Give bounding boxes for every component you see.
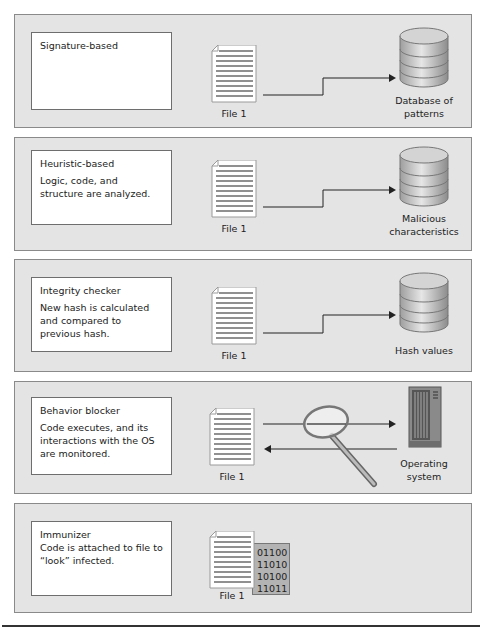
binary-code-block: 01100 11010 10100 11011 (252, 543, 290, 595)
database-icon (399, 27, 449, 89)
arrow-connector (263, 295, 398, 340)
file-label: File 1 (204, 108, 264, 119)
file-label: File 1 (202, 471, 262, 482)
target-label: Operating system (379, 457, 469, 483)
database-icon (399, 146, 449, 208)
panel-signature-based: Signature-based File 1 Database of (14, 14, 472, 128)
document-icon (211, 287, 257, 345)
target-label: Hash values (379, 344, 469, 357)
description-box: Immunizer Code is attached to file to “l… (31, 521, 172, 596)
method-title: Immunizer (40, 528, 163, 541)
method-title: Behavior blocker (40, 404, 163, 417)
server-tower-icon (408, 386, 442, 448)
panel-immunizer: Immunizer Code is attached to file to “l… (14, 503, 472, 613)
description-box: Signature-based (31, 32, 172, 110)
description-box: Behavior blocker Code executes, and its … (31, 397, 172, 475)
description-box: Heuristic-based Logic, code, and structu… (31, 150, 172, 225)
panel-integrity-checker: Integrity checker New hash is calculated… (14, 259, 472, 372)
method-description: Logic, code, and structure are analyzed. (40, 174, 163, 200)
panel-behavior-blocker: Behavior blocker Code executes, and its … (14, 381, 472, 494)
method-title: Heuristic-based (40, 157, 163, 170)
magnifying-glass-icon (302, 404, 382, 489)
arrow-connector (263, 168, 398, 213)
file-label: File 1 (202, 590, 262, 601)
document-icon (209, 408, 255, 466)
target-label: Database of patterns (379, 94, 469, 120)
method-description: Code is attached to file to “look” infec… (40, 541, 163, 567)
bottom-divider (2, 625, 480, 627)
file-label: File 1 (204, 223, 264, 234)
method-description: Code executes, and its interactions with… (40, 421, 163, 460)
document-icon (209, 531, 255, 589)
document-icon (211, 160, 257, 218)
file-label: File 1 (204, 350, 264, 361)
description-box: Integrity checker New hash is calculated… (31, 277, 172, 352)
arrow-connector (263, 60, 398, 100)
database-icon (399, 272, 449, 334)
target-label: Malicious characteristics (379, 212, 469, 238)
method-description: New hash is calculated and compared to p… (40, 301, 163, 340)
panel-heuristic-based: Heuristic-based Logic, code, and structu… (14, 137, 472, 251)
method-title: Integrity checker (40, 284, 163, 297)
document-icon (211, 45, 257, 103)
method-title: Signature-based (40, 39, 163, 52)
